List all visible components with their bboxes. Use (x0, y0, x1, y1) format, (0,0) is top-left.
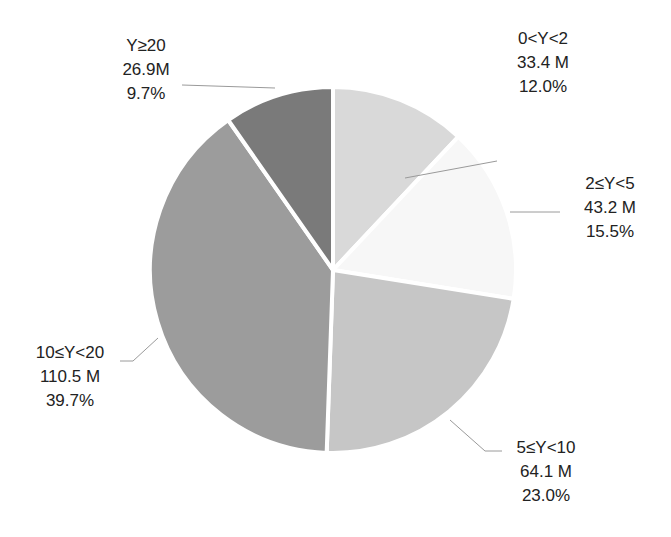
data-label-5-to-10: 5≤Y<10 64.1 M 23.0% (496, 436, 596, 508)
label-category: 10≤Y<20 (20, 341, 120, 365)
data-label-2-to-5: 2≤Y<5 43.2 M 15.5% (560, 172, 660, 244)
leader-line-2 (450, 420, 502, 451)
label-value: 33.4 M (493, 51, 593, 75)
label-value: 26.9M (106, 58, 186, 82)
leader-line-3 (120, 338, 158, 361)
label-percent: 12.0% (493, 75, 593, 99)
label-percent: 15.5% (560, 220, 660, 244)
label-category: 0<Y<2 (493, 27, 593, 51)
label-category: 2≤Y<5 (560, 172, 660, 196)
label-category: Y≥20 (106, 34, 186, 58)
label-value: 43.2 M (560, 196, 660, 220)
label-value: 110.5 M (20, 365, 120, 389)
label-value: 64.1 M (496, 460, 596, 484)
leader-line-4 (182, 85, 275, 88)
label-percent: 9.7% (106, 82, 186, 106)
data-label-10-to-20: 10≤Y<20 110.5 M 39.7% (20, 341, 120, 413)
pie-slices (150, 87, 516, 453)
label-percent: 23.0% (496, 484, 596, 508)
label-category: 5≤Y<10 (496, 436, 596, 460)
pie-slice-2 (327, 270, 514, 453)
data-label-20-plus: Y≥20 26.9M 9.7% (106, 34, 186, 106)
data-label-0-to-2: 0<Y<2 33.4 M 12.0% (493, 27, 593, 99)
label-percent: 39.7% (20, 389, 120, 413)
